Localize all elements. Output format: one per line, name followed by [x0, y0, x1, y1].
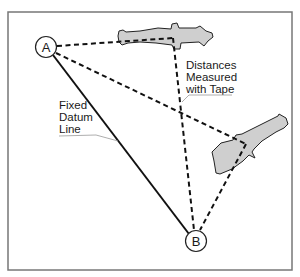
- distances-label-line2: Measured: [186, 71, 237, 83]
- distances-label-line3: with Tape: [185, 83, 234, 95]
- datum-label-line2: Datum: [59, 111, 93, 123]
- datum-label-line3: Line: [59, 123, 81, 135]
- distances-label-line1: Distances: [186, 59, 237, 71]
- point-b: B: [186, 231, 207, 252]
- measurement-diagram: A B Fixed Datum Line Distances Measured …: [0, 0, 300, 277]
- point-a-label: A: [42, 40, 51, 55]
- datum-label-line1: Fixed: [59, 99, 87, 111]
- point-a: A: [36, 37, 57, 58]
- point-b-label: B: [192, 234, 201, 249]
